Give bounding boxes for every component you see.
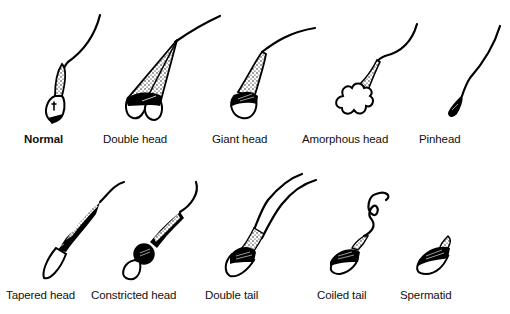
pinhead-sperm-drawing	[449, 26, 500, 116]
label-amorphous-head: Amorphous head	[302, 133, 388, 145]
double-head-sperm-drawing	[126, 16, 220, 120]
giant-head-sperm-drawing	[231, 28, 315, 118]
double-tail-sperm-drawing	[226, 174, 316, 276]
label-coiled-tail: Coiled tail	[317, 289, 366, 301]
label-spermatid: Spermatid	[400, 289, 452, 301]
sperm-morphology-diagram	[0, 0, 510, 314]
label-pinhead: Pinhead	[419, 133, 461, 145]
spermatid-drawing	[417, 236, 450, 274]
label-tapered-head: Tapered head	[6, 289, 75, 301]
coiled-tail-sperm-drawing	[330, 193, 388, 274]
normal-sperm-drawing	[46, 15, 100, 124]
label-giant-head: Giant head	[212, 133, 267, 145]
label-double-head: Double head	[103, 133, 167, 145]
label-normal: Normal	[24, 133, 63, 145]
amorphous-head-sperm-drawing	[336, 24, 417, 114]
constricted-head-sperm-drawing	[123, 182, 197, 279]
label-double-tail: Double tail	[205, 289, 258, 301]
label-constricted-head: Constricted head	[91, 289, 176, 301]
tapered-head-sperm-drawing	[44, 182, 125, 278]
